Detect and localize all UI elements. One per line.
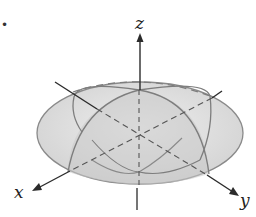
y-axis-back (212, 91, 222, 98)
x-arrowhead-icon (32, 183, 42, 191)
spheroid-diagram: • z x y (0, 0, 256, 217)
z-arrowhead-icon (137, 33, 144, 42)
y-axis-front (207, 175, 233, 192)
x-axis-label: x (14, 182, 24, 202)
x-axis-front (38, 171, 70, 188)
y-axis-label: y (239, 190, 250, 210)
y-arrowhead-icon (229, 187, 239, 196)
bullet-marker: • (1, 18, 8, 32)
z-axis-label: z (134, 13, 145, 33)
